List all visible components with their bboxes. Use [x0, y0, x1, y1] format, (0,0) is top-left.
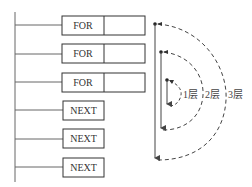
- rungs: [15, 25, 63, 167]
- next-instruction-box: NEXT: [63, 129, 104, 148]
- for-label: FOR: [73, 77, 93, 88]
- for-instruction-box: FOR: [62, 44, 145, 63]
- nested-loop-diagram: FOR FOR FOR NEXT NEXT NEXT: [0, 0, 252, 187]
- for-label: FOR: [73, 48, 93, 59]
- next-instruction-box: NEXT: [63, 101, 104, 120]
- for-label: FOR: [73, 20, 93, 31]
- layer-2-label: 2层: [205, 89, 220, 100]
- next-label: NEXT: [70, 105, 97, 116]
- layer-3-label: 3层: [228, 89, 243, 100]
- for-instruction-box: FOR: [62, 16, 145, 35]
- for-instruction-box: FOR: [62, 73, 145, 92]
- next-label: NEXT: [70, 162, 97, 173]
- next-label: NEXT: [70, 133, 97, 144]
- loop-layer-1: [165, 78, 181, 106]
- next-instruction-box: NEXT: [63, 158, 104, 177]
- layer-1-label: 1层: [183, 89, 198, 100]
